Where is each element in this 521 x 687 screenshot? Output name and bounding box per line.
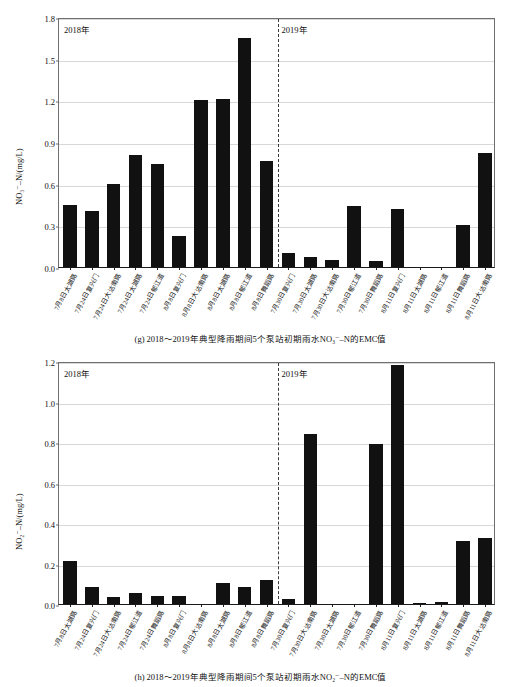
bar [478, 538, 492, 604]
y-tick-label: 1.5 [44, 56, 55, 66]
bar [172, 236, 186, 267]
x-axis-labels-g: 7月8日太湖路7月24日复兴门7月24日大沽南路7月24日太湖路7月24日郁江道… [58, 268, 495, 330]
bar [63, 205, 77, 268]
y-tick-label: 1.2 [44, 97, 55, 107]
figure-caption-h: (h) 2018～2019年典型降雨期间5个泵站初期雨水NO₂⁻–N的EMC值 [0, 670, 521, 682]
bar [172, 596, 186, 604]
bar [216, 583, 230, 604]
bar [151, 164, 165, 267]
y-tick-label: 0.6 [44, 480, 55, 490]
bar [216, 99, 230, 267]
plot-area-g: 0.00.30.60.91.21.51.8 2018年 2019年 [58, 18, 495, 268]
bar [456, 225, 470, 267]
bar-series-g [59, 19, 494, 267]
y-tick-label: 1.0 [44, 399, 55, 409]
x-axis-labels-h: 7月8日太湖路7月24日复兴门7月24日大沽南路7月24日郁江道7月24日舞蹈路… [58, 605, 495, 667]
y-tick-label: 0.8 [44, 439, 55, 449]
y-tick-label: 0.9 [44, 139, 55, 149]
bar [238, 38, 252, 267]
bar [107, 597, 121, 604]
y-tick-label: 0.6 [44, 181, 55, 191]
bar [85, 587, 99, 604]
y-tick-label: 1.2 [44, 358, 55, 368]
bar [369, 444, 383, 604]
bar [456, 541, 470, 604]
bar [107, 184, 121, 267]
bar [129, 155, 143, 268]
bar [304, 434, 318, 604]
bar [391, 209, 405, 267]
figure-caption-g: (g) 2018～2019年典型降雨期间5个泵站初期雨水NO₃⁻–N的EMC值 [0, 332, 521, 344]
plot-area-h: 0.00.20.40.60.81.01.2 2018年 2019年 [58, 362, 495, 605]
bar [325, 260, 339, 267]
bar [282, 253, 296, 267]
figure-g-nitrate-emc: NO₃⁻–N/(mg/L) 0.00.30.60.91.21.51.8 2018… [0, 0, 521, 350]
bar [194, 100, 208, 267]
y-tick-label: 0.0 [44, 264, 55, 274]
y-tick-label: 1.8 [44, 14, 55, 24]
bar-series-h [59, 363, 494, 604]
y-tick-label: 0.4 [44, 520, 55, 530]
bar [129, 593, 143, 604]
figure-h-nitrite-emc: NO₂⁻–N/(mg/L) 0.00.20.40.60.81.01.2 2018… [0, 350, 521, 687]
y-axis-title-h: NO₂⁻–N/(mg/L) [14, 493, 24, 550]
bar [85, 211, 99, 267]
y-tick-label: 0.2 [44, 561, 55, 571]
y-tick-label: 0.3 [44, 222, 55, 232]
y-axis-title-g: NO₃⁻–N/(mg/L) [14, 148, 24, 205]
bar [391, 365, 405, 604]
bar [260, 580, 274, 604]
y-tick-label: 0.0 [44, 601, 55, 611]
bar [63, 561, 77, 604]
bar [260, 161, 274, 267]
bar [478, 153, 492, 267]
bar [151, 596, 165, 604]
bar [304, 257, 318, 267]
bar [347, 206, 361, 267]
bar [238, 587, 252, 604]
